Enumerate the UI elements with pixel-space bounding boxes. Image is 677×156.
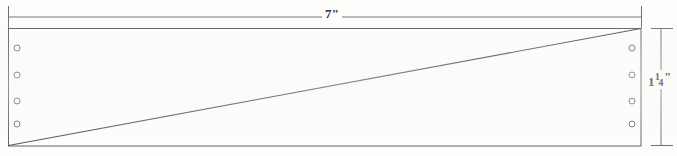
mounting-hole (629, 121, 635, 127)
mounting-hole (14, 121, 20, 127)
mounting-hole (14, 72, 20, 78)
plate-drawing-svg (0, 0, 677, 156)
mounting-hole (14, 98, 20, 104)
height-dimension-label: 114" (647, 70, 672, 89)
diagonal-line (9, 29, 642, 146)
mounting-hole (14, 45, 20, 51)
mounting-hole (629, 45, 635, 51)
height-dimension-whole: 1 (648, 74, 655, 89)
left-hole-column (14, 45, 20, 127)
mounting-hole (629, 98, 635, 104)
technical-drawing-canvas: 7" 114" (0, 0, 677, 156)
fraction-denominator: 4 (659, 78, 664, 88)
right-hole-column (629, 45, 635, 127)
mounting-hole (629, 72, 635, 78)
width-dimension-label: 7" (322, 7, 342, 20)
height-dimension-fraction: 14 (655, 76, 665, 86)
inch-mark: " (664, 70, 671, 84)
